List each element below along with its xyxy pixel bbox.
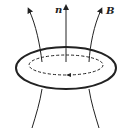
field-label: B [105,5,114,16]
loop-diagram: n B [0,0,128,137]
field-line-left-lower [32,89,42,128]
field-line-left-upper [29,10,42,62]
current-direction-arrow [66,73,71,77]
field-line-right-upper [89,10,101,62]
field-line-right-lower [89,89,99,128]
normal-label: n [55,4,62,15]
